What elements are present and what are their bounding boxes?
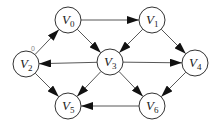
edge-v3-to-v5 <box>77 71 101 96</box>
node-v6: V6 <box>139 93 165 119</box>
node-v2: V2 <box>13 51 39 77</box>
edge-v0-to-v3 <box>77 29 101 53</box>
node-subscript: 4 <box>197 62 202 72</box>
node-v0: V0 <box>55 7 81 33</box>
edge-v1-to-v3 <box>119 29 143 53</box>
node-subscript: 3 <box>112 61 117 71</box>
node-v5: V5 <box>55 93 81 119</box>
edge-v1-to-v4 <box>161 29 186 54</box>
edge-v4-to-v6 <box>161 72 186 97</box>
node-v1: V1 <box>139 7 165 33</box>
edge-v3-to-v2 <box>39 62 97 63</box>
directed-graph-canvas: V0V1V2V3V4V5V6 0 <box>0 0 214 125</box>
node-subscript: 1 <box>154 19 159 29</box>
node-subscript: 6 <box>154 105 159 115</box>
edge-v3-to-v6 <box>119 71 143 96</box>
edge-v2-to-v5 <box>35 73 59 97</box>
node-subscript: 2 <box>28 63 33 73</box>
node-v4: V4 <box>182 50 208 76</box>
edge-label-v2-v0: 0 <box>31 45 35 52</box>
node-v3: V3 <box>97 49 123 75</box>
edge-v2-to-v0 <box>35 29 59 54</box>
edge-v3-to-v4 <box>123 62 182 63</box>
node-subscript: 5 <box>70 105 75 115</box>
node-subscript: 0 <box>70 19 75 29</box>
